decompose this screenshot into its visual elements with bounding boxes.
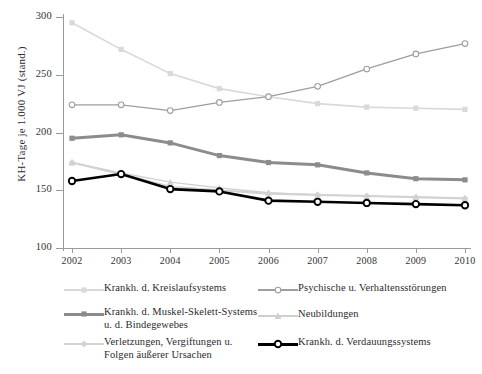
data-point: [168, 140, 173, 145]
y-tick: [56, 248, 63, 249]
x-tick: [465, 248, 466, 253]
legend-item[interactable]: Psychische u. Verhaltensstörungen: [258, 282, 447, 296]
legend-swatch-square-icon: [64, 307, 104, 320]
data-point: [413, 201, 419, 207]
data-point: [462, 177, 467, 182]
data-point: [81, 341, 88, 348]
x-tick-label: 2004: [147, 255, 193, 266]
data-point: [265, 197, 271, 203]
data-point: [275, 287, 281, 293]
legend-label: Psychische u. Verhaltensstörungen: [298, 282, 447, 295]
data-point: [69, 178, 75, 184]
x-tick: [219, 248, 220, 253]
data-point: [413, 176, 418, 181]
legend-item[interactable]: Krankh. d. Muskel-Skelett-Systems u. d. …: [64, 306, 257, 331]
x-tick-label: 2007: [295, 255, 341, 266]
data-point: [118, 102, 124, 108]
x-tick: [72, 248, 73, 253]
data-point: [81, 311, 86, 316]
series-1: [69, 41, 468, 114]
data-point: [413, 51, 419, 57]
y-tick: [56, 133, 63, 134]
data-point: [265, 190, 272, 197]
y-tick-label: 150: [14, 183, 52, 194]
x-tick-label: 2008: [344, 255, 390, 266]
series-lines: [63, 17, 470, 248]
data-point: [364, 170, 369, 175]
x-tick: [269, 248, 270, 253]
legend-swatch-diamond-icon: [64, 337, 104, 350]
data-point: [167, 108, 173, 114]
x-tick-label: 2006: [246, 255, 292, 266]
legend-label: Krankh. d. Kreislaufsystems: [104, 282, 226, 295]
data-point: [217, 153, 222, 158]
x-tick-label: 2010: [442, 255, 482, 266]
data-point: [315, 84, 321, 90]
data-point: [69, 102, 75, 108]
legend-item[interactable]: Krankh. d. Kreislaufsystems: [64, 282, 226, 296]
y-tick: [56, 75, 63, 76]
data-point: [462, 107, 467, 112]
data-point: [413, 106, 418, 111]
legend-marker: [77, 307, 91, 321]
legend-item[interactable]: Krankh. d. Verdauungssystems: [258, 336, 431, 350]
series-4: [69, 159, 469, 202]
data-point: [167, 186, 173, 192]
data-point: [315, 101, 320, 106]
y-tick-label: 250: [14, 68, 52, 79]
data-point: [81, 287, 86, 292]
x-tick: [318, 248, 319, 253]
legend-label: Verletzungen, Vergiftungen u. Folgen äuß…: [104, 336, 232, 361]
data-point: [315, 162, 320, 167]
legend-swatch-open-circle-black-icon: [258, 337, 298, 350]
x-tick: [416, 248, 417, 253]
y-tick: [56, 17, 63, 18]
y-tick-label: 100: [14, 241, 52, 252]
legend-swatch-triangle-icon: [258, 309, 298, 322]
x-tick-label: 2009: [393, 255, 439, 266]
y-tick-label: 300: [14, 10, 52, 21]
data-point: [462, 41, 468, 47]
y-tick: [56, 190, 63, 191]
x-tick: [367, 248, 368, 253]
legend-item[interactable]: Neubildungen: [258, 308, 359, 322]
legend-marker: [271, 283, 285, 297]
legend-marker: [77, 283, 91, 297]
data-point: [69, 20, 74, 25]
legend-item[interactable]: Verletzungen, Vergiftungen u. Folgen äuß…: [64, 336, 232, 361]
x-tick: [121, 248, 122, 253]
data-point: [364, 66, 370, 72]
data-point: [266, 160, 271, 165]
x-tick: [170, 248, 171, 253]
data-point: [364, 104, 369, 109]
chart-figure: KH-Tage je 1.000 VJ (stand.) 10015020025…: [0, 0, 482, 374]
legend-label: Krankh. d. Verdauungssystems: [298, 336, 431, 349]
data-point: [266, 94, 272, 100]
legend-label: Neubildungen: [298, 308, 359, 321]
y-tick-label: 200: [14, 126, 52, 137]
plot-area: [63, 17, 470, 248]
x-tick-label: 2003: [98, 255, 144, 266]
data-point: [69, 136, 74, 141]
data-point: [119, 132, 124, 137]
series-line: [72, 135, 465, 180]
legend-label: Krankh. d. Muskel-Skelett-Systems u. d. …: [104, 306, 257, 331]
chart-legend: Krankh. d. KreislaufsystemsPsychische u.…: [64, 282, 478, 370]
data-point: [217, 86, 222, 91]
legend-marker: [271, 337, 285, 351]
legend-marker: [77, 337, 91, 351]
data-point: [118, 171, 124, 177]
legend-swatch-square-icon: [64, 283, 104, 296]
data-point: [275, 341, 281, 347]
x-axis-line: [63, 248, 471, 249]
data-point: [119, 47, 124, 52]
data-point: [168, 71, 173, 76]
legend-swatch-open-circle-icon: [258, 283, 298, 296]
x-tick-label: 2005: [196, 255, 242, 266]
legend-marker: [271, 309, 285, 323]
data-point: [314, 199, 320, 205]
data-point: [275, 313, 282, 319]
data-point: [364, 200, 370, 206]
data-point: [462, 202, 468, 208]
data-point: [217, 100, 223, 106]
